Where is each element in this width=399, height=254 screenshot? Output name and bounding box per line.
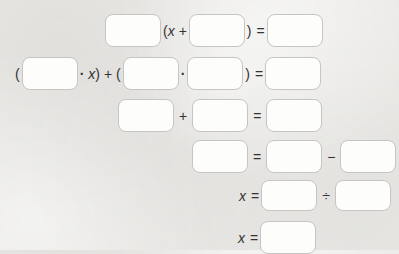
- math-text-open-paren: (: [13, 66, 22, 82]
- equation-row-divide: x= ÷: [237, 180, 391, 211]
- math-text-close-equals: )=: [245, 23, 267, 39]
- variable-x: x: [88, 66, 95, 82]
- answer-box-r5-dividend[interactable]: [261, 180, 317, 211]
- equals-sign: =: [248, 108, 266, 124]
- answer-box-r2-term2-factor2[interactable]: [187, 57, 243, 90]
- equation-row-solution: x=: [236, 221, 316, 254]
- answer-box-r4-subtrahend[interactable]: [340, 140, 396, 173]
- answer-box-r6-solution[interactable]: [260, 221, 316, 254]
- answer-box-r3-addend1[interactable]: [118, 99, 174, 132]
- multiplication-dot: ·: [80, 66, 85, 82]
- math-text-open-x-plus: (x+: [161, 23, 189, 39]
- equation-row-distributive: (x+ )=: [105, 14, 323, 47]
- math-text-dot-x-plus-open: ·x) + (: [78, 66, 123, 82]
- equation-row-sum: + =: [118, 99, 322, 132]
- division-sign: ÷: [317, 188, 335, 204]
- variable-x: x: [239, 188, 246, 204]
- answer-box-r3-result[interactable]: [266, 99, 322, 132]
- equals-sign: =: [248, 149, 266, 165]
- answer-box-r4-minuend[interactable]: [266, 140, 322, 173]
- answer-box-r3-addend2[interactable]: [192, 99, 248, 132]
- answer-box-r1-result[interactable]: [267, 14, 323, 47]
- math-text-x-equals: x=: [237, 188, 261, 204]
- answer-box-r2-result[interactable]: [265, 57, 321, 90]
- multiplication-dot: ·: [181, 66, 186, 82]
- equation-row-expanded: ( ·x) + ( · )=: [13, 57, 321, 90]
- variable-x: x: [238, 230, 245, 246]
- plus-sign: +: [174, 108, 192, 124]
- variable-x: x: [168, 23, 175, 39]
- answer-box-r1-addend[interactable]: [189, 14, 245, 47]
- answer-box-r5-divisor[interactable]: [335, 180, 391, 211]
- equation-row-subtract: = −: [192, 140, 396, 173]
- math-text-dot: ·: [179, 66, 188, 82]
- math-text-x-equals: x=: [236, 230, 260, 246]
- answer-box-r1-coefficient[interactable]: [105, 14, 161, 47]
- answer-box-r4-left[interactable]: [192, 140, 248, 173]
- minus-sign: −: [322, 149, 340, 165]
- answer-box-r2-term1-factor[interactable]: [22, 57, 78, 90]
- math-text-close-equals: )=: [243, 66, 265, 82]
- answer-box-r2-term2-factor1[interactable]: [123, 57, 179, 90]
